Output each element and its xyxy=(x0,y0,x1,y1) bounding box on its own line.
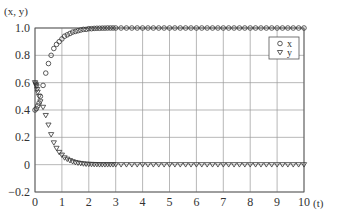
legend: x y xyxy=(269,37,299,59)
y-tick-label: 0.6 xyxy=(15,76,30,90)
data-point-x xyxy=(46,61,51,66)
data-point-x xyxy=(57,39,62,44)
legend-label-y: y xyxy=(287,47,292,58)
y-tick-label: 1.0 xyxy=(15,21,30,35)
x-tick-label: 10 xyxy=(298,195,310,209)
x-tick-label: 5 xyxy=(167,195,173,209)
data-point-x xyxy=(41,83,46,88)
chart: −0.200.20.40.60.81.0 012345678910 (x, y)… xyxy=(0,0,337,217)
y-tick-label: 0.4 xyxy=(15,103,30,117)
x-tick-labels: 012345678910 xyxy=(32,195,310,209)
data-point-x xyxy=(65,33,70,38)
y-tick-label: 0.8 xyxy=(15,48,30,62)
x-tick-label: 2 xyxy=(86,195,92,209)
y-tick-label: 0.2 xyxy=(15,130,30,144)
x-tick-label: 7 xyxy=(220,195,226,209)
data-point-x xyxy=(54,42,59,47)
x-tick-label: 6 xyxy=(193,195,199,209)
legend-box xyxy=(269,37,299,59)
x-tick-label: 8 xyxy=(247,195,253,209)
y-tick-labels: −0.200.20.40.60.81.0 xyxy=(8,21,30,199)
data-point-x xyxy=(43,71,48,76)
x-tick-label: 4 xyxy=(140,195,146,209)
y-axis-label: (x, y) xyxy=(4,5,28,18)
x-tick-label: 1 xyxy=(59,195,65,209)
data-point-y xyxy=(46,123,51,127)
x-tick-label: 3 xyxy=(113,195,119,209)
x-tick-label: 9 xyxy=(274,195,280,209)
data-point-y xyxy=(49,133,54,137)
data-point-y xyxy=(51,141,56,145)
data-point-x xyxy=(35,104,40,109)
x-tick-label: 0 xyxy=(32,195,38,209)
data-point-x xyxy=(68,31,73,36)
y-tick-label: −0.2 xyxy=(8,185,30,199)
data-point-y xyxy=(36,94,41,98)
data-point-y xyxy=(57,150,62,154)
data-point-x xyxy=(52,46,57,51)
data-point-x xyxy=(62,34,67,39)
data-point-y xyxy=(40,105,45,109)
y-tick-label: 0 xyxy=(24,158,30,172)
x-axis-label: (t) xyxy=(313,197,324,210)
data-point-y xyxy=(43,113,48,117)
